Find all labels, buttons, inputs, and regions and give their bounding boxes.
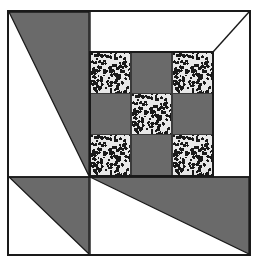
nine-patch-cell-r1-c1	[131, 93, 172, 134]
quilt-block-figure	[0, 0, 261, 264]
nine-patch-cell-r2-c1	[131, 135, 172, 176]
nine-patch-cell-r1-c2	[172, 93, 213, 134]
nine-patch-cell-r0-c0	[90, 52, 131, 93]
nine-patch-cell-r2-c2	[172, 135, 213, 176]
nine-patch-cell-r1-c0	[90, 93, 131, 134]
center-nine-patch	[90, 52, 213, 176]
quilt-block-canvas	[0, 0, 261, 264]
nine-patch-cell-r0-c1	[131, 52, 172, 93]
nine-patch-cell-r2-c0	[90, 135, 131, 176]
nine-patch-cell-r0-c2	[172, 52, 213, 93]
